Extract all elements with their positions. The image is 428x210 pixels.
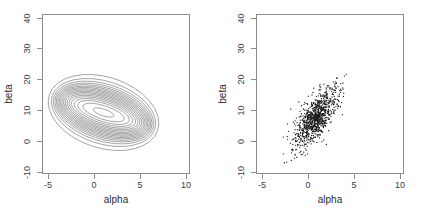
scatter-x-axis-title: alpha bbox=[310, 195, 350, 205]
scatter-xtick-mark bbox=[262, 174, 263, 179]
scatter-xtick-label-0: 0 bbox=[294, 181, 322, 190]
contour-ytick-label-30: 30 bbox=[23, 39, 32, 59]
contour-panel: 40 30 20 10 0 -10 -5 0 5 10 beta alpha bbox=[0, 0, 214, 210]
scatter-points bbox=[257, 15, 405, 175]
scatter-xtick-mark bbox=[400, 174, 401, 179]
contour-xtick-label-5: 5 bbox=[126, 181, 154, 190]
contour-ytick-label-neg10: -10 bbox=[23, 160, 32, 186]
contour-y-axis-title: beta bbox=[4, 74, 14, 114]
contour-ytick-mark bbox=[37, 48, 42, 49]
contour-ytick-label-20: 20 bbox=[23, 70, 32, 90]
contour-ytick-mark bbox=[37, 172, 42, 173]
scatter-xtick-mark bbox=[308, 174, 309, 179]
contour-xtick-label-10: 10 bbox=[172, 181, 200, 190]
scatter-xtick-label-5: 5 bbox=[340, 181, 368, 190]
contour-ytick-label-0: 0 bbox=[23, 132, 32, 152]
scatter-ytick-mark bbox=[251, 172, 256, 173]
contour-xtick-label-0: 0 bbox=[80, 181, 108, 190]
scatter-xtick-mark bbox=[354, 174, 355, 179]
contour-xtick-mark bbox=[94, 174, 95, 179]
contour-ytick-mark bbox=[37, 79, 42, 80]
scatter-ytick-label-20: 20 bbox=[237, 70, 246, 90]
two-panel-figure: 40 30 20 10 0 -10 -5 0 5 10 beta alpha 4… bbox=[0, 0, 428, 210]
contour-ytick-mark bbox=[37, 141, 42, 142]
scatter-y-axis-title: beta bbox=[218, 74, 228, 114]
contour-ytick-label-10: 10 bbox=[23, 101, 32, 121]
contour-xtick-mark bbox=[186, 174, 187, 179]
contour-xtick-mark bbox=[48, 174, 49, 179]
scatter-ytick-label-0: 0 bbox=[237, 132, 246, 152]
scatter-ytick-mark bbox=[251, 48, 256, 49]
contour-ytick-label-40: 40 bbox=[23, 9, 32, 29]
contour-lines bbox=[43, 15, 191, 175]
contour-xtick-mark bbox=[140, 174, 141, 179]
scatter-ytick-mark bbox=[251, 110, 256, 111]
scatter-ytick-mark bbox=[251, 141, 256, 142]
scatter-ytick-label-40: 40 bbox=[237, 9, 246, 29]
scatter-ytick-label-neg10: -10 bbox=[237, 160, 246, 186]
contour-ytick-mark bbox=[37, 18, 42, 19]
scatter-panel: 40 30 20 10 0 -10 -5 0 5 10 beta alpha bbox=[214, 0, 428, 210]
scatter-ytick-label-30: 30 bbox=[237, 39, 246, 59]
contour-xtick-label-neg5: -5 bbox=[34, 181, 62, 190]
scatter-ytick-mark bbox=[251, 79, 256, 80]
scatter-ytick-label-10: 10 bbox=[237, 101, 246, 121]
contour-x-axis-title: alpha bbox=[96, 195, 136, 205]
scatter-xtick-label-10: 10 bbox=[386, 181, 414, 190]
contour-ytick-mark bbox=[37, 110, 42, 111]
scatter-xtick-label-neg5: -5 bbox=[248, 181, 276, 190]
scatter-ytick-mark bbox=[251, 18, 256, 19]
